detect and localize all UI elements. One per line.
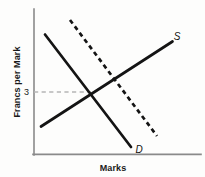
y-axis-tick-label-3: 3 [24,87,29,97]
demand-curve [45,35,131,148]
supply-curve-label: S [174,31,181,42]
demand-shifted-curve [70,20,157,136]
x-axis-label: Marks [100,163,127,173]
y-axis-label: Francs per Mark [12,46,22,117]
plot-area [0,0,205,177]
demand-curve-label: D [135,144,142,155]
supply-demand-chart: Francs per Mark Marks 3 S D [0,0,205,177]
